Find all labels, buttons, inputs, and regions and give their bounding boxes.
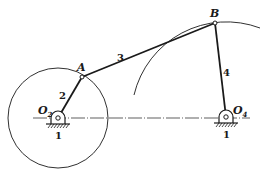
label-link-3: 3	[117, 52, 124, 63]
label-o2: O2	[38, 104, 53, 119]
joint-b	[213, 21, 217, 25]
link-3-coupler	[82, 23, 215, 77]
four-bar-linkage-diagram: A B O2 O4 2 3 4 1 1	[0, 0, 268, 174]
label-b: B	[209, 7, 219, 20]
label-ground-1-right: 1	[223, 129, 230, 140]
label-o4: O4	[233, 104, 248, 119]
joint-a	[80, 75, 84, 79]
label-link-2: 2	[59, 90, 66, 101]
label-link-4: 4	[223, 67, 230, 78]
label-ground-1-left: 1	[55, 130, 62, 141]
rocker-path-arc	[134, 22, 260, 95]
label-a: A	[76, 61, 86, 74]
